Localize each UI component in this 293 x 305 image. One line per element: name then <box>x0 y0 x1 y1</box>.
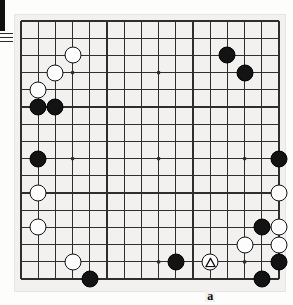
stone-white[interactable] <box>64 47 81 64</box>
triangle-mark-icon <box>205 257 216 267</box>
gutter-rule <box>0 41 13 42</box>
stone-black[interactable] <box>271 150 288 167</box>
stone-white[interactable] <box>271 185 288 202</box>
go-diagram-figure: a <box>0 0 293 305</box>
stone-white-marked[interactable] <box>202 253 219 270</box>
stone-white[interactable] <box>271 219 288 236</box>
stone-black[interactable] <box>167 253 184 270</box>
stone-black[interactable] <box>219 47 236 64</box>
page-gutter-bar <box>0 0 5 31</box>
stone-black[interactable] <box>236 64 253 81</box>
stone-white[interactable] <box>271 236 288 253</box>
stone-white[interactable] <box>236 236 253 253</box>
stone-black[interactable] <box>47 99 64 116</box>
stone-black[interactable] <box>81 271 98 288</box>
stone-black[interactable] <box>30 99 47 116</box>
stone-white[interactable] <box>30 185 47 202</box>
stone-white[interactable] <box>47 64 64 81</box>
gutter-rule <box>0 37 13 38</box>
stone-black[interactable] <box>253 271 270 288</box>
gutter-rule <box>0 33 13 34</box>
stone-white[interactable] <box>30 219 47 236</box>
stone-black[interactable] <box>271 253 288 270</box>
go-board[interactable]: a <box>14 14 286 292</box>
stone-white[interactable] <box>64 253 81 270</box>
stone-black[interactable] <box>30 150 47 167</box>
stone-white[interactable] <box>30 81 47 98</box>
stone-black[interactable] <box>253 219 270 236</box>
board-point-label: a <box>205 290 215 302</box>
